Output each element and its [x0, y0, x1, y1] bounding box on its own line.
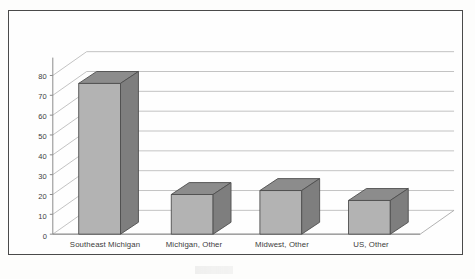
y-tick-label-60: 60: [23, 112, 47, 121]
category-label-michigan-other: Michigan, Other: [146, 240, 242, 249]
chart-svg: [9, 11, 462, 254]
category-label-us-other: US, Other: [325, 240, 417, 249]
y-tick-label-20: 20: [23, 192, 47, 201]
bar-midwest-other: [260, 179, 320, 235]
y-tick-label-30: 30: [23, 172, 47, 181]
y-tick-label-0: 0: [23, 232, 47, 241]
chart-frame: 80 70 60 50 40 30 20 10 0 Southeast Mich…: [8, 10, 463, 255]
y-tick-label-40: 40: [23, 152, 47, 161]
plot-area: 80 70 60 50 40 30 20 10 0 Southeast Mich…: [9, 11, 462, 254]
chart-screenshot: 80 70 60 50 40 30 20 10 0 Southeast Mich…: [0, 0, 475, 279]
bar-michigan-other: [171, 183, 231, 235]
scan-artifact: [195, 266, 233, 274]
category-label-midwest-other: Midwest, Other: [234, 240, 330, 249]
bar-southeast-michigan: [79, 72, 139, 235]
y-tick-label-10: 10: [23, 212, 47, 221]
y-tick-label-80: 80: [23, 72, 47, 81]
bar-us-other: [349, 189, 409, 235]
category-label-southeast-michigan: Southeast Michigan: [49, 240, 161, 249]
y-tick-label-50: 50: [23, 132, 47, 141]
y-tick-label-70: 70: [23, 92, 47, 101]
